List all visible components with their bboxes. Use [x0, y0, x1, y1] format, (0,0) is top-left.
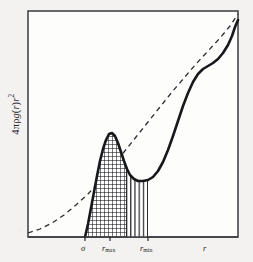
x-tick-sigma-text: σ: [81, 243, 85, 253]
x-axis-label-text: r: [203, 243, 206, 253]
radial-distribution-function-figure: [0, 0, 253, 262]
x-tick-label-r-max: rmax: [102, 243, 115, 253]
y-axis-label-text: 4πρg(r)r2: [9, 94, 20, 135]
x-tick-label-r-min: rmin: [140, 243, 152, 253]
x-tick-r-max-sub: max: [105, 247, 115, 253]
x-tick-label-sigma: σ: [81, 243, 85, 253]
y-axis-label: 4πρg(r)r2: [8, 72, 21, 156]
x-tick-r-min-sub: min: [143, 247, 152, 253]
x-axis-label: r: [203, 243, 206, 253]
